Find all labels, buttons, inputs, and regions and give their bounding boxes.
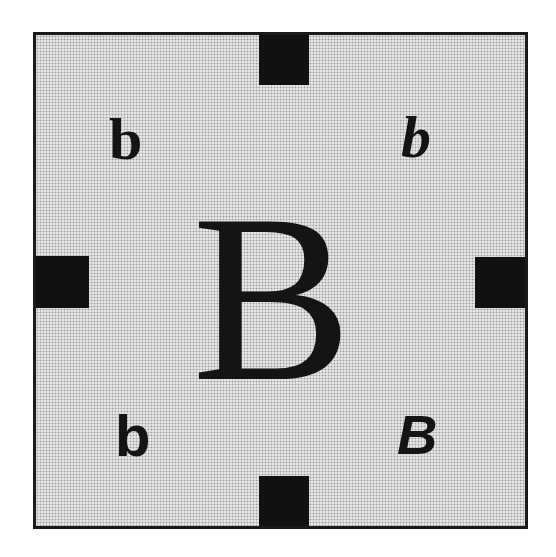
letter-card: B b b b B — [33, 32, 528, 529]
right-tab-marker — [475, 257, 525, 308]
top-tab-marker — [259, 35, 309, 85]
bottom-tab-marker — [259, 476, 309, 526]
corner-letter-bottom-left-sans-bold: b — [115, 407, 150, 465]
corner-letter-top-left-serif-bold: b — [109, 109, 142, 169]
left-tab-marker — [36, 256, 89, 308]
corner-letter-bottom-right-sans-bold-italic: B — [397, 407, 437, 463]
corner-letter-top-right-serif-bold-italic: b — [401, 107, 431, 167]
center-letter: B — [192, 178, 352, 418]
